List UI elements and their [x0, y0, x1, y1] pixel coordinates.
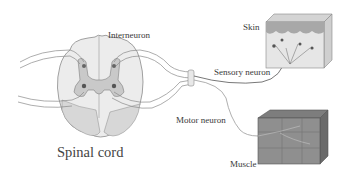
label-interneuron: Interneuron [108, 31, 150, 40]
label-muscle: Muscle [230, 160, 257, 169]
motor-neuron-fiber [194, 80, 258, 136]
label-spinal-cord: Spinal cord [57, 145, 123, 160]
label-skin: Skin [243, 23, 260, 32]
spinal-cord-cross-section [57, 35, 143, 137]
skin-block-illustration [266, 14, 332, 68]
muscle-block-illustration [258, 110, 328, 164]
label-motor-neuron: Motor neuron [176, 116, 226, 125]
label-sensory-neuron: Sensory neuron [214, 68, 270, 77]
reflex-arc-diagram: Interneuron Skin Sensory neuron Motor ne… [0, 0, 338, 176]
